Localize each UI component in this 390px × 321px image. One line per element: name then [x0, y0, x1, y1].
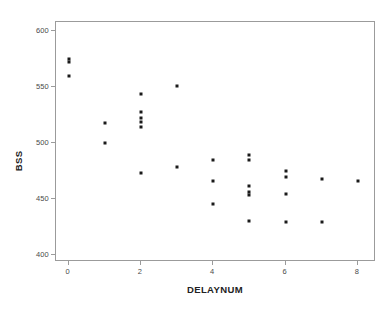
- data-point: [212, 180, 215, 183]
- y-axis-tick-label: 550: [36, 82, 49, 91]
- data-point: [67, 74, 70, 77]
- data-point: [284, 170, 287, 173]
- x-axis-tick: [212, 261, 213, 265]
- data-point: [176, 165, 179, 168]
- data-point: [284, 192, 287, 195]
- plot-area: [55, 21, 375, 261]
- x-axis: 02468: [55, 261, 375, 301]
- x-axis-tick-label: 8: [355, 267, 359, 276]
- x-axis-tick-label: 6: [282, 267, 286, 276]
- data-point: [248, 154, 251, 157]
- data-point: [248, 219, 251, 222]
- data-point: [320, 178, 323, 181]
- data-point: [248, 193, 251, 196]
- data-point: [139, 120, 142, 123]
- y-axis-tick-label: 500: [36, 138, 49, 147]
- data-point: [139, 92, 142, 95]
- data-point: [284, 175, 287, 178]
- y-axis-tick-label: 400: [36, 250, 49, 259]
- data-point: [248, 158, 251, 161]
- data-point: [139, 172, 142, 175]
- y-axis-tick-label: 450: [36, 194, 49, 203]
- data-points-layer: [56, 22, 374, 260]
- data-point: [139, 126, 142, 129]
- x-axis-tick-label: 0: [65, 267, 69, 276]
- data-point: [103, 142, 106, 145]
- data-point: [284, 220, 287, 223]
- x-axis-tick: [285, 261, 286, 265]
- data-point: [356, 180, 359, 183]
- data-point: [103, 121, 106, 124]
- x-axis-tick: [357, 261, 358, 265]
- y-axis-title: BSS: [13, 150, 24, 171]
- data-point: [212, 202, 215, 205]
- data-point: [176, 84, 179, 87]
- data-point: [320, 220, 323, 223]
- y-axis-tick-label: 600: [36, 25, 49, 34]
- x-axis-tick: [68, 261, 69, 265]
- x-axis-tick: [140, 261, 141, 265]
- x-axis-tick-label: 4: [210, 267, 214, 276]
- y-axis: 400450500550600: [0, 0, 55, 321]
- data-point: [139, 110, 142, 113]
- x-axis-title: DELAYNUM: [55, 284, 375, 295]
- scatter-plot-figure: 400450500550600 BSS 02468 DELAYNUM: [0, 0, 390, 321]
- data-point: [248, 184, 251, 187]
- data-point: [212, 158, 215, 161]
- data-point: [67, 61, 70, 64]
- x-axis-tick-label: 2: [138, 267, 142, 276]
